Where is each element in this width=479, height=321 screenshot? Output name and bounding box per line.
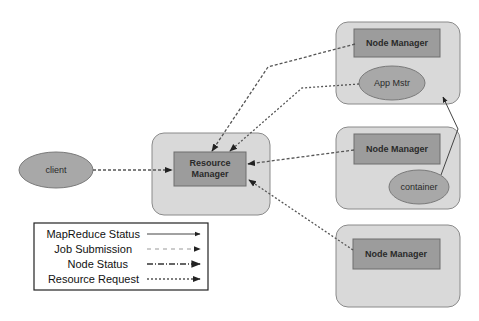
node-manager-3-group: Node Manager <box>336 225 460 307</box>
legend-label-job-submission: Job Submission <box>54 243 132 255</box>
container-label: container <box>400 182 437 192</box>
yarn-diagram: Resource Manager client Node Manager App… <box>0 0 479 321</box>
node-manager-1-label: Node Manager <box>366 38 429 48</box>
resource-manager-group: Resource Manager <box>152 133 270 215</box>
resource-manager-label-1: Resource <box>189 158 230 168</box>
legend-label-node-status: Node Status <box>67 258 128 270</box>
legend-label-mapreduce-status: MapReduce Status <box>46 228 140 240</box>
app-master-label: App Mstr <box>374 78 410 88</box>
legend-label-resource-request: Resource Request <box>48 273 139 285</box>
resource-manager-label-2: Manager <box>191 169 229 179</box>
node-manager-2-group: Node Manager container <box>336 127 460 209</box>
legend: MapReduce Status Job Submission Node Sta… <box>34 223 208 290</box>
node-manager-3-label: Node Manager <box>365 249 428 259</box>
client-label: client <box>45 165 67 175</box>
node-manager-1-group: Node Manager App Mstr <box>336 22 460 104</box>
client-group: client <box>19 152 93 188</box>
node-manager-2-label: Node Manager <box>366 144 429 154</box>
